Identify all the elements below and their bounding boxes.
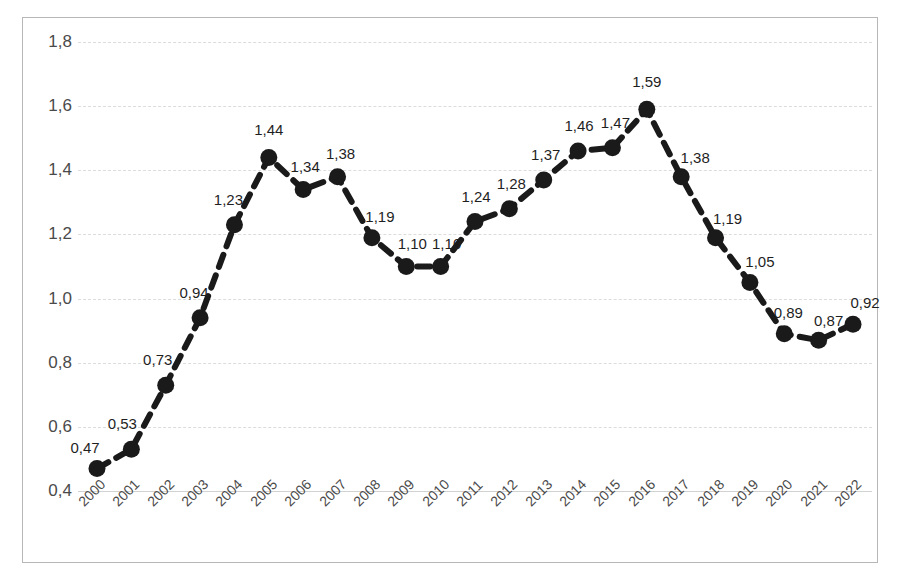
series-line <box>0 0 897 580</box>
data-point-marker <box>638 101 655 118</box>
data-point-marker <box>467 213 484 230</box>
data-point-label: 1,38 <box>326 145 355 162</box>
data-point-label: 0,94 <box>179 284 208 301</box>
data-point-label: 1,05 <box>745 253 774 270</box>
data-point-marker <box>123 441 140 458</box>
data-point-marker <box>501 200 518 217</box>
data-point-marker <box>776 325 793 342</box>
data-point-label: 0,73 <box>143 351 172 368</box>
data-point-marker <box>432 258 449 275</box>
data-point-marker <box>398 258 415 275</box>
data-point-label: 1,44 <box>254 121 283 138</box>
data-point-marker <box>741 274 758 291</box>
data-point-label: 1,28 <box>497 175 526 192</box>
data-point-marker <box>810 332 827 349</box>
data-point-marker <box>295 181 312 198</box>
data-point-marker <box>192 309 209 326</box>
data-point-label: 0,89 <box>774 304 803 321</box>
data-point-label: 1,38 <box>681 149 710 166</box>
data-point-label: 1,59 <box>632 73 661 90</box>
data-point-marker <box>226 216 243 233</box>
data-point-marker <box>707 229 724 246</box>
plot-area: 0,40,60,81,01,21,41,61,8 200020012002200… <box>0 0 897 580</box>
data-point-marker <box>673 168 690 185</box>
data-point-label: 1,47 <box>601 114 630 131</box>
data-point-marker <box>570 143 587 160</box>
data-point-marker <box>157 377 174 394</box>
data-point-marker <box>363 229 380 246</box>
data-point-label: 1,34 <box>291 158 320 175</box>
data-point-label: 1,19 <box>713 210 742 227</box>
data-point-label: 1,10 <box>432 235 461 252</box>
data-point-label: 1,46 <box>564 117 593 134</box>
series-polyline <box>97 109 853 468</box>
data-point-label: 1,23 <box>214 191 243 208</box>
data-point-label: 1,19 <box>365 208 394 225</box>
data-point-label: 0,87 <box>814 312 843 329</box>
data-point-marker <box>89 460 106 477</box>
data-point-marker <box>604 139 621 156</box>
data-point-label: 1,10 <box>398 235 427 252</box>
chart-page: статистика 0,40,60,81,01,21,41,61,8 2000… <box>0 0 897 580</box>
data-point-label: 0,92 <box>850 294 879 311</box>
data-point-label: 0,47 <box>70 439 99 456</box>
data-point-label: 1,24 <box>461 188 490 205</box>
data-point-marker <box>535 171 552 188</box>
data-point-label: 0,53 <box>108 415 137 432</box>
data-point-marker <box>260 149 277 166</box>
data-point-marker <box>329 168 346 185</box>
data-point-marker <box>845 316 862 333</box>
data-point-label: 1,37 <box>531 146 560 163</box>
